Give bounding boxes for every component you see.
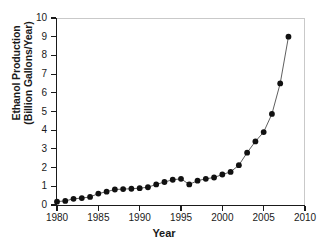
data-point	[236, 162, 242, 168]
x-tick-label: 2005	[253, 213, 275, 223]
data-point	[104, 189, 110, 195]
data-point	[112, 187, 118, 193]
data-point	[120, 186, 126, 192]
y-tick-label: 3	[41, 144, 47, 154]
y-tick-label: 5	[41, 107, 47, 117]
data-series-layer	[57, 18, 305, 205]
ethanol-production-chart: Ethanol Production (Billion Gallons/Year…	[0, 0, 328, 246]
x-tick-label: 2010	[294, 213, 316, 223]
y-tick-mark	[51, 130, 56, 131]
x-tick-label: 1980	[46, 213, 68, 223]
x-tick-mark	[139, 206, 140, 211]
x-axis-title: Year	[0, 227, 328, 239]
data-point	[211, 175, 217, 181]
y-tick-label: 8	[41, 50, 47, 60]
y-tick-mark	[51, 167, 56, 168]
x-tick-label: 1995	[170, 213, 192, 223]
data-point	[178, 176, 184, 182]
data-point	[71, 196, 77, 202]
x-tick-mark	[180, 206, 181, 211]
data-point	[153, 182, 159, 188]
x-tick-mark	[304, 206, 305, 211]
y-tick-label: 2	[41, 163, 47, 173]
data-point	[253, 139, 259, 145]
y-tick-label: 7	[41, 69, 47, 79]
y-axis-title-line-2: (Billion Gallons/Year)	[23, 21, 35, 124]
data-point	[137, 185, 143, 191]
data-point	[269, 111, 275, 117]
y-tick-mark	[51, 186, 56, 187]
x-tick-mark	[263, 206, 264, 211]
data-point	[87, 194, 93, 200]
y-tick-label: 9	[41, 32, 47, 42]
data-point	[145, 184, 151, 190]
data-point	[186, 182, 192, 188]
x-tick-label: 2000	[211, 213, 233, 223]
x-tick-mark	[222, 206, 223, 211]
data-point	[79, 195, 85, 201]
y-tick-label: 10	[36, 13, 47, 23]
y-tick-mark	[51, 204, 56, 205]
y-tick-label: 6	[41, 88, 47, 98]
data-point	[203, 176, 209, 182]
y-tick-label: 4	[41, 125, 47, 135]
data-point	[277, 81, 283, 87]
y-tick-label: 1	[41, 181, 47, 191]
data-markers	[54, 34, 291, 205]
data-point	[95, 191, 101, 197]
data-point	[244, 150, 250, 156]
x-tick-label: 1990	[129, 213, 151, 223]
data-point	[286, 34, 292, 40]
data-point	[170, 177, 176, 183]
y-tick-mark	[51, 111, 56, 112]
y-tick-mark	[51, 36, 56, 37]
data-point	[261, 129, 267, 135]
y-tick-mark	[51, 17, 56, 18]
data-point	[54, 199, 60, 205]
data-point	[228, 169, 234, 175]
y-tick-mark	[51, 55, 56, 56]
y-tick-label: 0	[41, 200, 47, 210]
x-tick-mark	[56, 206, 57, 211]
y-tick-mark	[51, 148, 56, 149]
data-point	[62, 198, 68, 204]
data-point	[129, 186, 135, 192]
data-point	[195, 178, 201, 184]
y-axis-title-line-1: Ethanol Production	[11, 25, 23, 120]
data-point	[219, 172, 225, 178]
x-tick-label: 1985	[87, 213, 109, 223]
y-tick-mark	[51, 92, 56, 93]
data-point	[162, 179, 168, 185]
x-tick-mark	[98, 206, 99, 211]
y-tick-mark	[51, 74, 56, 75]
